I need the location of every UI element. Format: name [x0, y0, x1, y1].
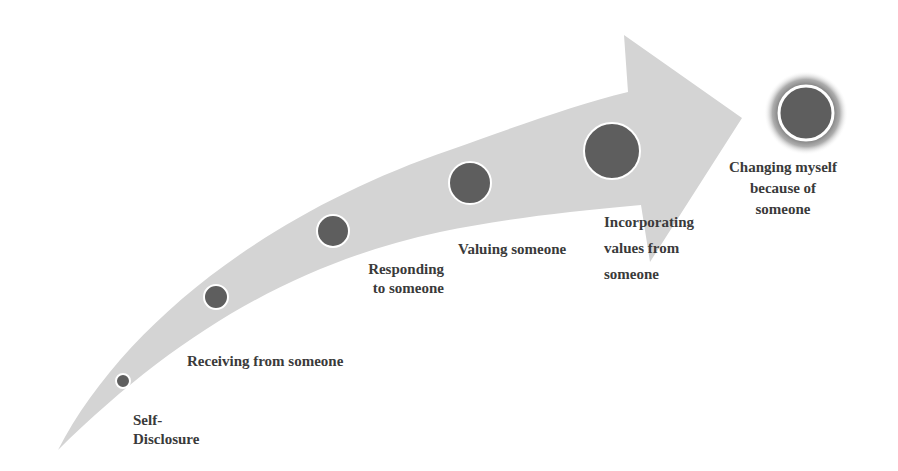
stage-label-changing: Changing myself because of someone	[713, 157, 853, 220]
stage-node-receiving	[204, 285, 228, 309]
stage-label-responding: Responding to someone	[352, 260, 444, 298]
label-line: because of	[713, 178, 853, 199]
label-line: Responding	[352, 260, 444, 279]
progression-diagram	[0, 0, 898, 471]
stage-label-valuing: Valuing someone	[458, 240, 566, 259]
stage-label-self-disclosure: Self- Disclosure	[133, 411, 199, 449]
label-line: someone	[713, 199, 853, 220]
label-line: Valuing someone	[458, 240, 566, 259]
label-line: Self-	[133, 411, 199, 430]
label-line: values from	[604, 235, 694, 261]
stage-label-incorporating: Incorporating values from someone	[604, 209, 694, 287]
stage-node-changing	[779, 86, 833, 140]
stage-node-responding	[317, 215, 349, 247]
label-line: Changing myself	[713, 157, 853, 178]
label-line: Receiving from someone	[187, 352, 343, 371]
stage-label-receiving: Receiving from someone	[187, 352, 343, 371]
label-line: Incorporating	[604, 209, 694, 235]
stage-node-incorporating	[584, 123, 640, 179]
label-line: Disclosure	[133, 430, 199, 449]
label-line: someone	[604, 261, 694, 287]
label-line: to someone	[352, 279, 444, 298]
stage-node-valuing	[449, 162, 491, 204]
stage-node-self-disclosure	[116, 374, 130, 388]
